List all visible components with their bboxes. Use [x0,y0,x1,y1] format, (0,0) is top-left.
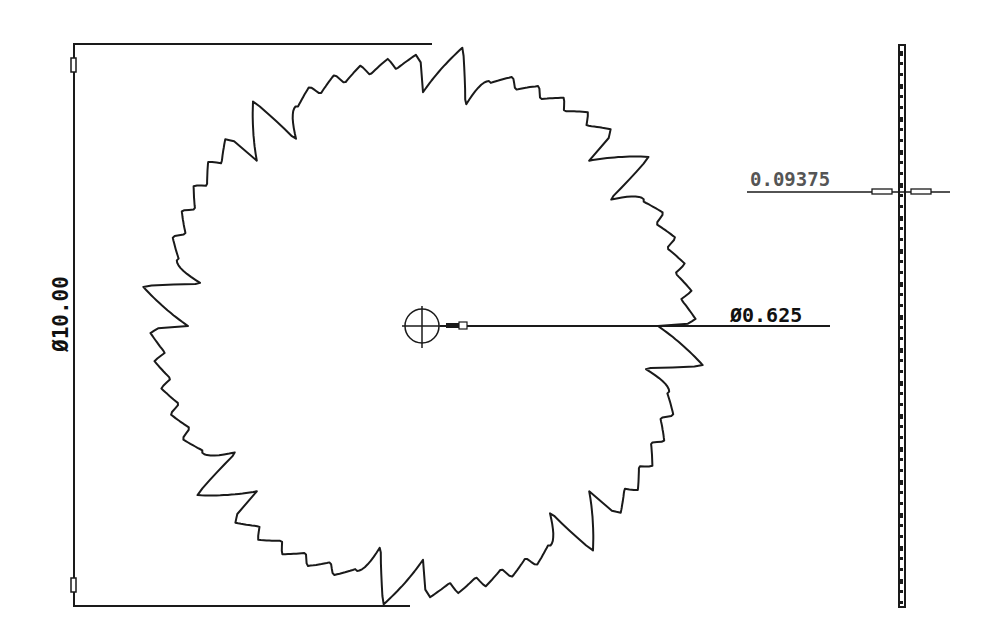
side-view-dash [900,183,903,188]
thickness-arrow-right-icon [911,189,931,194]
side-view-dash [900,95,903,98]
side-view-dash [900,568,903,571]
side-view-dash [900,513,903,518]
side-view-dash [900,480,903,485]
side-view-dash [900,238,903,241]
side-view-dash [900,403,903,406]
side-view-dash [900,326,903,329]
arrow-bottom-icon [71,578,76,592]
side-view-dash [900,414,903,419]
side-view-dash [900,392,903,395]
side-view-dash [900,117,903,122]
side-view-dash [900,227,903,230]
side-view-dash [900,216,903,221]
side-view-dash [900,304,903,307]
thickness-arrow-left-icon [872,189,892,194]
side-view-dash [900,260,903,263]
outer-diameter-label: Ø10.00 [49,276,73,353]
arrow-top-icon [71,58,76,72]
arbor-diameter-dimension: Ø0.625 [440,303,830,329]
side-view-dash [900,502,903,505]
side-view-dash [900,425,903,428]
side-view-dash [900,348,903,353]
side-view-dash [900,590,903,593]
arbor-arrow-tip-icon [459,322,467,329]
side-view-dash [900,62,903,65]
side-view-dash [900,524,903,527]
side-view-dash [900,447,903,452]
side-view-dash [900,106,903,109]
side-view-dash [900,315,903,320]
side-view-dash [900,491,903,494]
side-view-dash [900,436,903,439]
arbor-diameter-label: Ø0.625 [729,303,802,327]
side-view-dash [900,194,903,197]
side-view-dash [900,128,903,131]
side-view-dash [900,546,903,551]
saw-blade-drawing: Ø10.00 Ø0.625 0.09375 [0,0,985,642]
side-view-dash [900,293,903,296]
side-view-dash [900,161,903,164]
side-view-dash [900,84,903,89]
side-view-dash [900,370,903,373]
side-view-dash [900,381,903,386]
side-view-dash [900,469,903,472]
side-view-dash [900,73,903,76]
side-view-dash [900,271,903,274]
side-view-dash [900,535,903,538]
outer-diameter-dimension: Ø10.00 [49,44,432,606]
side-view-dash [900,337,903,340]
side-view-dash [900,557,903,560]
arbor-hole [402,306,444,348]
thickness-label: 0.09375 [750,168,830,190]
side-view-dash [900,359,903,362]
side-view-dash [900,458,903,461]
side-view-dash [900,139,903,142]
side-view-dash [900,579,903,584]
side-view-dash [900,249,903,254]
side-view-dash [900,150,903,155]
thickness-dimension: 0.09375 [747,168,950,194]
side-view-dash [900,601,903,604]
side-view-dash [900,205,903,208]
side-view-dash [900,172,903,175]
side-view-dash [900,282,903,287]
side-view-dash [900,51,903,56]
side-view [899,45,905,607]
